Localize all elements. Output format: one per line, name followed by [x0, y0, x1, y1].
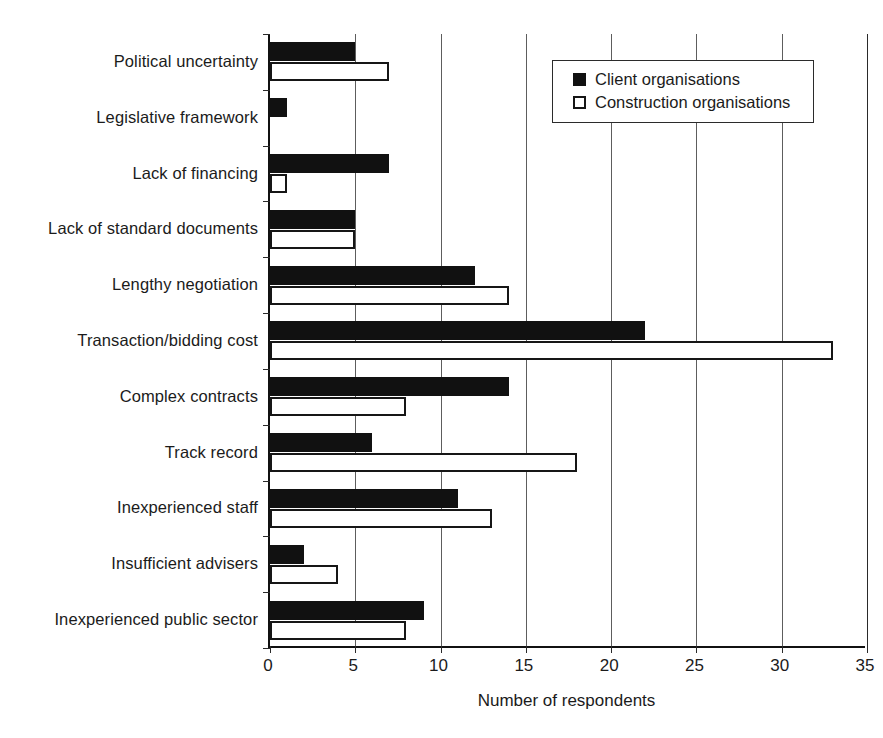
bar-client: [270, 154, 389, 173]
category-axis-labels: Political uncertaintyLegislative framewo…: [0, 34, 258, 648]
bar-client: [270, 433, 372, 452]
bar-client: [270, 601, 424, 620]
bar-client: [270, 489, 458, 508]
x-tick-label: 20: [600, 655, 619, 676]
y-tick: [263, 34, 270, 35]
bar-chart: Political uncertaintyLegislative framewo…: [0, 0, 883, 738]
y-tick: [263, 313, 270, 314]
bar-client: [270, 98, 287, 117]
filled-square-icon: [573, 73, 586, 86]
category-label-10: Inexperienced public sector: [0, 610, 258, 629]
category-label-0: Political uncertainty: [0, 52, 258, 71]
bar-group: [270, 146, 865, 202]
chart-legend: Client organisationsConstruction organis…: [552, 60, 814, 123]
x-tick-label: 5: [349, 655, 358, 676]
bar-client: [270, 210, 355, 229]
bar-construction: [270, 230, 355, 249]
x-tick-35: [867, 646, 868, 653]
bar-group: [270, 425, 865, 481]
category-label-5: Transaction/bidding cost: [0, 331, 258, 350]
bar-construction: [270, 341, 833, 360]
category-label-2: Lack of financing: [0, 164, 258, 183]
bar-construction: [270, 397, 406, 416]
category-label-4: Lengthy negotiation: [0, 275, 258, 294]
bar-construction: [270, 453, 577, 472]
bar-group: [270, 592, 865, 648]
y-tick: [263, 648, 270, 649]
x-axis-title: Number of respondents: [268, 690, 865, 711]
y-tick: [263, 146, 270, 147]
y-tick: [263, 592, 270, 593]
bar-client: [270, 266, 475, 285]
gridline-35: [867, 34, 868, 646]
bar-group: [270, 481, 865, 537]
x-tick-label: 30: [770, 655, 789, 676]
bar-group: [270, 369, 865, 425]
category-label-6: Complex contracts: [0, 387, 258, 406]
x-tick-label: 10: [429, 655, 448, 676]
bar-construction: [270, 286, 509, 305]
y-tick: [263, 425, 270, 426]
x-tick-label: 35: [856, 655, 875, 676]
y-tick: [263, 257, 270, 258]
legend-item-1: Construction organisations: [553, 91, 813, 114]
bar-construction: [270, 62, 389, 81]
bar-construction: [270, 174, 287, 193]
x-axis-tick-labels: 05101520253035: [268, 655, 865, 679]
bar-construction: [270, 509, 492, 528]
legend-item-label: Construction organisations: [595, 93, 790, 112]
bar-client: [270, 321, 645, 340]
bar-group: [270, 536, 865, 592]
bar-construction: [270, 565, 338, 584]
y-tick: [263, 369, 270, 370]
y-tick: [263, 536, 270, 537]
category-label-7: Track record: [0, 443, 258, 462]
plot-area: [268, 34, 865, 648]
bar-group: [270, 313, 865, 369]
category-label-1: Legislative framework: [0, 108, 258, 127]
bar-client: [270, 42, 355, 61]
x-tick-label: 15: [514, 655, 533, 676]
legend-item-0: Client organisations: [553, 68, 813, 91]
y-tick: [263, 201, 270, 202]
y-tick: [263, 481, 270, 482]
hollow-square-icon: [573, 96, 586, 109]
category-label-9: Insufficient advisers: [0, 554, 258, 573]
y-tick: [263, 90, 270, 91]
x-tick-label: 0: [263, 655, 272, 676]
bar-group: [270, 201, 865, 257]
category-label-3: Lack of standard documents: [0, 219, 258, 238]
x-tick-label: 25: [685, 655, 704, 676]
bar-client: [270, 377, 509, 396]
legend-item-label: Client organisations: [595, 70, 740, 89]
bar-client: [270, 545, 304, 564]
bar-group: [270, 257, 865, 313]
bar-construction: [270, 621, 406, 640]
category-label-8: Inexperienced staff: [0, 498, 258, 517]
